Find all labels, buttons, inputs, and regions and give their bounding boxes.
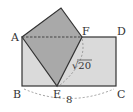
label-a: A xyxy=(10,31,20,44)
label-c: C xyxy=(117,88,125,101)
geometry-diagram: A F D B E C 8 √20 xyxy=(0,0,133,112)
label-d: D xyxy=(117,25,126,38)
label-e: E xyxy=(53,88,61,101)
measure-ef: √20 xyxy=(72,60,91,71)
measure-bc: 8 xyxy=(66,94,72,105)
label-b: B xyxy=(13,88,21,101)
label-f: F xyxy=(82,25,90,38)
